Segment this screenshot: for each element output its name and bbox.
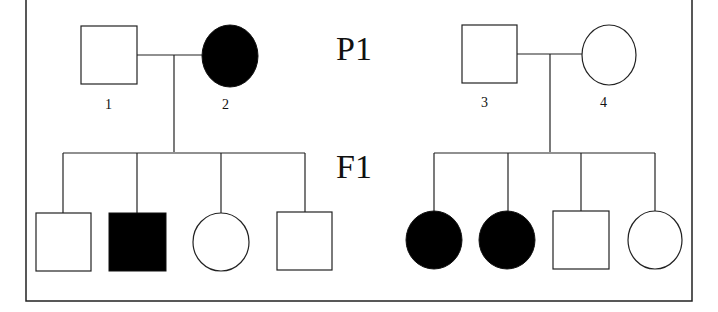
generation-label-p1: P1	[336, 30, 372, 67]
child-female-unaffected	[193, 213, 249, 271]
individual-label-3: 3	[481, 95, 488, 110]
individual-label-1: 1	[105, 97, 112, 112]
child-male-unaffected	[553, 211, 609, 269]
individual-label-4: 4	[600, 95, 607, 110]
child-female-affected	[479, 211, 535, 269]
child-female-affected	[406, 211, 462, 269]
individual-label-2: 2	[222, 97, 229, 112]
child-male-unaffected	[277, 212, 332, 270]
child-male-affected	[109, 213, 166, 271]
child-male-unaffected	[36, 213, 91, 271]
family-1: 1 2	[36, 25, 332, 271]
individual-2-female-affected	[202, 25, 258, 87]
individual-3-male-unaffected	[462, 25, 517, 83]
pedigree-chart: P1 F1 1 2 3	[0, 0, 718, 312]
individual-4-female-unaffected	[582, 25, 636, 85]
family-2: 3 4	[406, 25, 682, 269]
individual-1-male-unaffected	[81, 26, 137, 84]
generation-label-f1: F1	[336, 148, 372, 185]
child-female-unaffected	[628, 211, 682, 269]
